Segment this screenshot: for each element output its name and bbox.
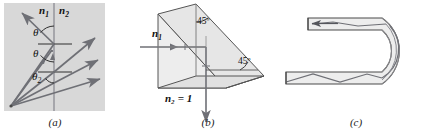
label-n1-panel-b: n1 [152, 27, 162, 42]
label-theta-critical: θ2 [32, 70, 41, 85]
panel-b: n1 n₂ = 1 45º 45º (b) [140, 0, 280, 134]
light-pipe-body [286, 18, 399, 84]
caption-panel-c: (c) [336, 116, 376, 128]
label-n1-panel-a: n1 [39, 4, 49, 19]
panel-c-diagram [278, 0, 436, 134]
caption-panel-b: (b) [188, 116, 228, 128]
label-n2-panel-a: n2 [59, 4, 69, 19]
panel-a: n1 n2 θ θ θ2 (a) [0, 0, 140, 134]
panel-b-diagram [140, 0, 280, 134]
label-theta-reflection: θ [33, 47, 38, 59]
panel-c: (c) [278, 0, 436, 134]
label-n2-panel-b: n₂ = 1 [165, 92, 192, 104]
source-point [9, 104, 12, 107]
caption-panel-a: (a) [35, 116, 75, 128]
optics-figure: n1 n2 θ θ θ2 (a) [0, 0, 436, 134]
label-theta-incidence: θ [33, 26, 38, 38]
label-angle-45-top: 45º [197, 16, 209, 26]
panel-a-diagram [0, 0, 140, 134]
label-angle-45-right: 45º [238, 56, 250, 66]
